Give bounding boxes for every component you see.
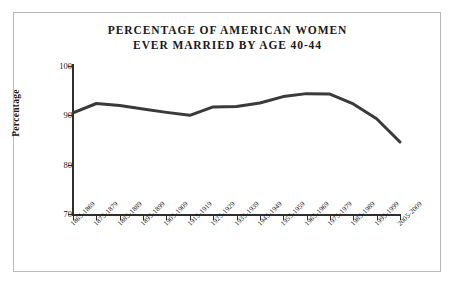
chart-title-line-1: PERCENTAGE OF AMERICAN WOMEN [108,24,347,36]
y-axis-tick-mark [68,165,72,166]
y-axis-tick-mark [68,115,72,116]
y-axis [72,64,74,216]
chart-figure: PERCENTAGE OF AMERICAN WOMEN EVER MARRIE… [0,0,455,287]
y-axis-label: Percentage [11,89,21,137]
y-axis-ticks: 708090100 [40,0,72,287]
y-axis-tick-mark [68,66,72,67]
y-axis-tick-mark [68,214,72,215]
